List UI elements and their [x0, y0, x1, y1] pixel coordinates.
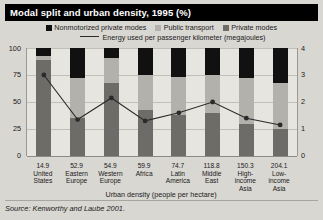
gridline-0	[27, 156, 297, 157]
legend-item-nonmotorized: Nonmotorized private modes	[46, 23, 146, 32]
legend-label-private-modes: Private modes	[231, 23, 277, 32]
legend-label-energy-line: Energy used per passenger kilometer (meg…	[103, 33, 266, 42]
legend-item-public-transport: Public transport	[155, 23, 213, 32]
y-axis-tick-0: 0	[5, 151, 21, 160]
x-label-latin-america: 74.7Latin America	[161, 162, 195, 190]
energy-line-marker-latin-america	[176, 110, 181, 115]
legend-item-private-modes: Private modes	[223, 23, 277, 32]
x-label-density: 204.1	[262, 162, 296, 170]
energy-line-marker-high-income-asia	[244, 116, 249, 121]
x-label-western-europe: 54.9Western Europe	[94, 162, 128, 190]
energy-line-marker-eastern-europe	[75, 117, 80, 122]
chart-title-bar: Modal split and urban density, 1995 (%)	[5, 4, 318, 21]
energy-line-marker-africa	[143, 119, 148, 124]
chart-figure: Modal split and urban density, 1995 (%) …	[0, 0, 323, 220]
x-label-density: 118.8	[195, 162, 229, 170]
energy-line-marker-middle-east	[210, 100, 215, 105]
x-label-density: 59.9	[127, 162, 161, 170]
legend-line-swatch	[80, 36, 99, 37]
y-axis-tick-100: 100	[5, 44, 21, 53]
x-label-density: 150.3	[229, 162, 263, 170]
page-title: Modal split and urban density, 1995 (%)	[5, 7, 191, 18]
x-label-density: 14.9	[26, 162, 60, 170]
y2-axis-tick-1: 1	[301, 124, 317, 133]
x-label-region: Eastern Europe	[65, 170, 88, 185]
y2-axis-tick-4: 4	[301, 44, 317, 53]
x-label-region: Middle East	[202, 170, 221, 185]
legend-swatch-nonmotorized	[46, 25, 52, 31]
x-label-region: Low-income Asia	[268, 170, 289, 192]
x-label-density: 74.7	[161, 162, 195, 170]
legend-swatch-row: Nonmotorized private modes Public transp…	[5, 23, 318, 32]
legend-swatch-private-modes	[223, 25, 229, 31]
x-label-high-income-asia: 150.3High-income Asia	[229, 162, 263, 190]
plot-canvas	[26, 48, 298, 156]
y2-axis-tick-0: 0	[301, 151, 317, 160]
x-axis-labels: 14.9United States52.9Eastern Europe54.9W…	[26, 162, 296, 190]
x-axis-title: Urban density (people per hectare)	[26, 190, 296, 199]
y-axis-tick-50: 50	[5, 97, 21, 106]
x-label-region: United States	[33, 170, 52, 185]
x-label-region: Western Europe	[98, 170, 122, 185]
y-axis-tick-75: 75	[5, 70, 21, 79]
x-label-middle-east: 118.8Middle East	[195, 162, 229, 190]
x-label-africa: 59.9Africa	[127, 162, 161, 190]
footer-divider	[5, 200, 318, 201]
x-label-united-states: 14.9United States	[26, 162, 60, 190]
y-axis-tick-25: 25	[5, 124, 21, 133]
y2-axis-tick-2: 2	[301, 97, 317, 106]
energy-line-marker-western-europe	[109, 96, 114, 101]
energy-line-marker-low-income-asia	[278, 123, 283, 128]
y2-axis-tick-3: 3	[301, 70, 317, 79]
x-label-low-income-asia: 204.1Low-income Asia	[262, 162, 296, 190]
x-label-region: High-income Asia	[235, 170, 256, 192]
legend-label-public-transport: Public transport	[164, 23, 214, 32]
legend-line-row: Energy used per passenger kilometer (meg…	[5, 33, 318, 42]
x-label-eastern-europe: 52.9Eastern Europe	[60, 162, 94, 190]
energy-line-series	[27, 48, 297, 156]
source-note: Source: Kenworthy and Laube 2001.	[5, 204, 125, 213]
energy-line-marker-united-states	[41, 73, 46, 78]
x-label-density: 52.9	[60, 162, 94, 170]
x-label-region: Africa	[136, 170, 153, 177]
legend-swatch-public-transport	[155, 25, 161, 31]
plot-area: 100 75 50 25 0 4 3 2 1 0 14.9United Stat…	[5, 44, 318, 190]
chart-legend: Nonmotorized private modes Public transp…	[5, 23, 318, 42]
legend-label-nonmotorized: Nonmotorized private modes	[54, 23, 146, 32]
x-label-density: 54.9	[94, 162, 128, 170]
x-label-region: Latin America	[166, 170, 190, 185]
